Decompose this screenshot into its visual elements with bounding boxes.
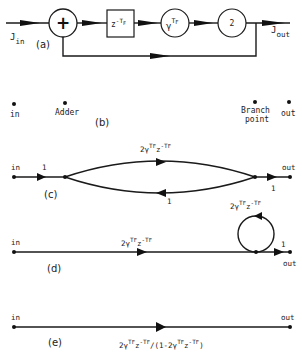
output-gain-label: 1 (281, 240, 286, 249)
arrow-icon (156, 158, 166, 166)
node-branch-label-1: Branch (241, 106, 270, 115)
panel-b-nodes: in Adder Branch point out (b) (10, 100, 296, 128)
panel-c-signal-flow-graph: in 1 out 1 2γTFz-TF 1 (c) (11, 142, 296, 206)
feedback-branch (65, 177, 255, 193)
forward-gain-label: 2γTFz-TF (121, 236, 152, 248)
panel-a-label: (a) (36, 39, 50, 50)
self-loop-gain-label: 2γTFz-TF (230, 199, 261, 211)
output-gain-label: 1 (271, 184, 276, 193)
node-adder (63, 101, 67, 105)
arrow-icon (82, 20, 102, 26)
in-label: in (11, 313, 20, 322)
panel-d-label: (d) (47, 263, 61, 274)
output-label: Jout (271, 25, 290, 39)
panel-d-signal-flow-graph: in out 1 2γTFz-TF 2γTFz-TF (d) (11, 199, 297, 274)
arrow-icon (156, 189, 166, 197)
out-label: out (282, 163, 296, 172)
panel-c-label: (c) (44, 189, 57, 200)
panel-e-label: (e) (48, 337, 62, 348)
signal-flow-figure: + z-TF γTF 2 Jin Jout (a) in Adder (0, 0, 302, 360)
panel-a-block-diagram: + z-TF γTF 2 Jin Jout (a) (6, 9, 290, 59)
node-in (12, 175, 16, 179)
transfer-function-label: 2γTFz-TF/(1-2γTFz-TF) (119, 338, 204, 350)
node-out (288, 175, 292, 179)
forward-gain-label: 2γTFz-TF (140, 142, 171, 154)
self-loop (238, 216, 274, 252)
node-branch (253, 175, 257, 179)
panel-b-label: (b) (95, 117, 109, 128)
node-out (287, 100, 291, 104)
in-label: in (11, 238, 20, 247)
node-in (12, 325, 16, 329)
arrow-icon (137, 248, 147, 256)
multiplier-label: 2 (230, 19, 235, 28)
node-loop (254, 250, 258, 254)
node-in (12, 250, 16, 254)
out-label: out (283, 259, 297, 268)
arrow-icon (194, 20, 213, 26)
arrow-icon (138, 20, 158, 26)
arrow-icon (156, 322, 166, 332)
panel-e-signal-flow-graph: in out 2γTFz-TF/(1-2γTFz-TF) (e) (11, 313, 295, 350)
node-in-label: in (10, 110, 20, 119)
arrow-icon (20, 20, 40, 26)
node-branch-label-2: point (245, 115, 269, 124)
arrow-icon (267, 173, 277, 181)
node-out-label: out (281, 109, 296, 118)
arrow-icon (37, 173, 46, 181)
feedback-gain-label: 1 (167, 197, 172, 206)
arrow-icon (274, 248, 284, 256)
node-adder (63, 175, 67, 179)
node-in (12, 102, 16, 106)
out-label: out (281, 313, 295, 322)
node-branch-point (253, 100, 257, 104)
adder-plus-symbol: + (56, 13, 70, 33)
node-out (288, 250, 292, 254)
input-label: Jin (10, 32, 24, 46)
input-gain-label: 1 (42, 163, 47, 172)
arrow-icon (150, 53, 170, 59)
arrow-icon (254, 212, 262, 220)
in-label: in (11, 163, 20, 172)
node-adder-label: Adder (55, 108, 79, 117)
node-out (288, 325, 292, 329)
